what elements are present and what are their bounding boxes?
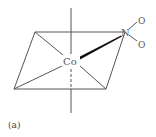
wedge-bond-co-n: [80, 36, 122, 60]
nitrogen-label: N: [121, 27, 130, 38]
octahedral-complex-diagram: Co N O O (a): [0, 0, 156, 137]
cobalt-label: Co: [63, 56, 77, 67]
bond-top-left: [35, 32, 63, 55]
bond-n-o-top: [129, 22, 137, 29]
oxygen-top-label: O: [138, 16, 145, 26]
bond-n-o-bottom: [129, 35, 137, 41]
bond-bottom-right: [80, 66, 106, 89]
figure-caption: (a): [8, 120, 20, 130]
oxygen-bottom-label: O: [138, 40, 145, 50]
